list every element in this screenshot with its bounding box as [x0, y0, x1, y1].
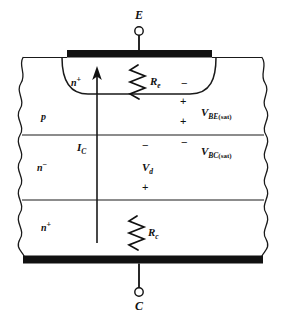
vbe-sat-subscript: BE: [208, 112, 218, 121]
collector-resistor-label: Rc: [148, 227, 159, 241]
vbe-sat-paren: (sat): [218, 113, 231, 121]
figure-canvas: E C n+ p n− n+ Re Rc IC VBE(sat) VBC(sat…: [0, 0, 283, 321]
collector-current-label: IC: [77, 142, 86, 156]
emitter-resistor-label: Re: [150, 76, 161, 90]
vbc-sat-label: VBC(sat): [201, 146, 232, 160]
vd-minus-top-sign: −: [142, 140, 148, 151]
region-label-collector-nminus: n−: [37, 161, 47, 173]
emitter-terminal-label: E: [135, 9, 143, 21]
region-carrier-type-base: p: [41, 111, 46, 122]
left-broken-edge: [18, 58, 24, 257]
emitter-metal-contact: [67, 50, 212, 58]
collector-resistor-zigzag-icon: [129, 216, 144, 250]
collector-current-subscript: C: [81, 147, 86, 156]
vbe-minus-top-sign: −: [181, 78, 187, 89]
vbc-sat-paren: (sat): [218, 152, 231, 160]
collector-terminal-label: C: [135, 300, 143, 312]
emitter-terminal-node-icon: [135, 27, 143, 35]
collector-resistor-subscript: c: [155, 232, 158, 241]
region-label-base-p: p: [41, 110, 46, 122]
vbc-minus-sign: −: [181, 137, 187, 148]
vd-label: Vd: [142, 162, 153, 176]
vbe-plus-sign: +: [180, 96, 186, 107]
collector-metal-contact: [23, 256, 263, 264]
region-doping-sup-collector: −: [43, 160, 48, 169]
collector-terminal-node-icon: [135, 288, 143, 296]
vd-subscript: d: [149, 167, 153, 176]
region-label-substrate-nplus: n+: [41, 221, 51, 233]
right-broken-edge: [262, 58, 268, 257]
emitter-resistor-subscript: e: [157, 81, 160, 90]
vbc-sat-subscript: BC: [208, 151, 218, 160]
region-doping-sup-emitter: +: [77, 75, 82, 84]
vbe-sat-label: VBE(sat): [201, 107, 232, 121]
region-label-emitter-nplus: n+: [71, 76, 81, 88]
vbc-plus-top-sign: +: [180, 116, 186, 127]
vd-plus-sign: +: [142, 182, 148, 193]
emitter-nplus-junction-boundary: [62, 58, 216, 95]
region-doping-sup-substrate: +: [47, 220, 52, 229]
